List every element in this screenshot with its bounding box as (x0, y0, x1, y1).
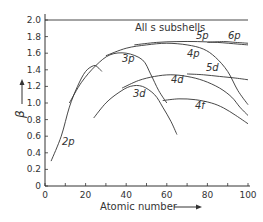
label-3p: 3p (122, 53, 135, 64)
y-tick-label: 0.6 (27, 131, 42, 141)
y-arrowhead-icon (20, 79, 25, 85)
x-axis-label: Atomic number (100, 201, 178, 212)
label-all-s: All s subshells (135, 22, 205, 33)
curves (45, 20, 248, 161)
y-tick-label: 0.4 (27, 148, 42, 158)
x-tick-label: 40 (120, 190, 132, 200)
y-tick-label: 0.8 (27, 115, 42, 125)
y-tick-label: 1.0 (27, 98, 42, 108)
x-tick-label: 100 (239, 190, 256, 200)
curve-3p (69, 53, 166, 103)
x-tick-label: 80 (202, 190, 214, 200)
x-tick-label: 0 (42, 190, 48, 200)
label-6p: 6p (228, 30, 241, 41)
y-tick-label: 1.4 (27, 65, 42, 75)
curve-4f (163, 99, 248, 124)
label-5d: 5d (206, 62, 219, 73)
y-tick-label: 0 (35, 181, 41, 191)
x-tick-label: 20 (80, 190, 92, 200)
chart: 00.20.40.60.81.01.21.41.61.82.0 02040608… (0, 0, 263, 222)
curve-5d (187, 74, 248, 80)
label-5p: 5p (196, 30, 209, 41)
y-tick-label: 0.2 (27, 164, 41, 174)
y-tick-label: 2.0 (27, 15, 42, 25)
label-2p: 2p (62, 136, 75, 147)
y-axis-label: β (13, 110, 27, 119)
label-3d: 3d (133, 88, 146, 99)
x-arrowhead-icon (196, 205, 202, 210)
x-tick-label: 60 (161, 190, 173, 200)
y-tick-label: 1.8 (27, 32, 42, 42)
label-4p: 4p (187, 48, 200, 59)
y-tick-label: 1.6 (27, 48, 42, 58)
label-4d: 4d (171, 74, 184, 85)
label-4f: 4f (195, 100, 206, 111)
y-tick-label: 1.2 (27, 81, 41, 91)
curve-2p (51, 65, 102, 161)
